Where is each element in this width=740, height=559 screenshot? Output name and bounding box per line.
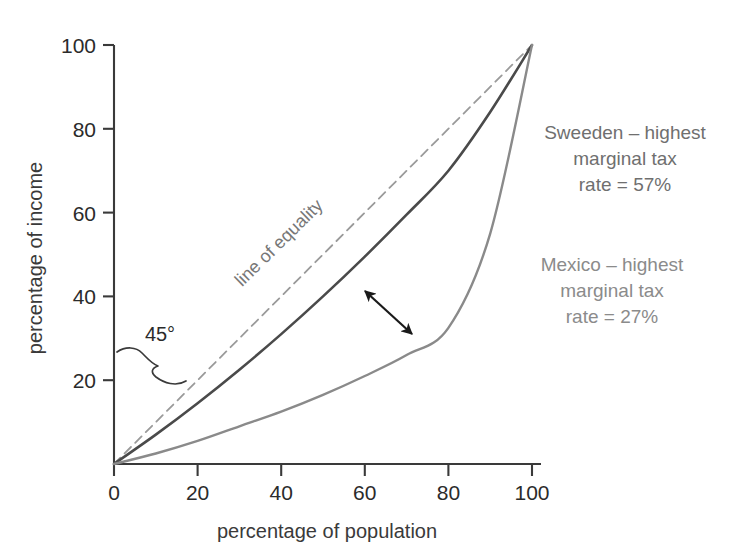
y-tick-marks: [103, 45, 114, 380]
angle-brace-icon: [117, 348, 186, 384]
angle-label: 45°: [145, 323, 175, 345]
y-tick-label-40: 40: [73, 285, 96, 308]
mexico-callout-line-3: rate = 27%: [566, 306, 659, 327]
line-of-equality-label: line of equality: [231, 195, 327, 290]
chart-canvas: 100 80 60 40 20 0 20 40 60 80 100 percen…: [0, 0, 740, 559]
sweden-callout-line-1: Sweeden – highest: [544, 122, 706, 143]
line-of-equality-curve: [114, 45, 532, 464]
y-tick-labels: 100 80 60 40 20: [61, 34, 96, 392]
x-axis-title: percentage of population: [217, 520, 437, 542]
sweden-callout-line-3: rate = 57%: [579, 174, 672, 195]
x-tick-label-80: 80: [437, 481, 460, 504]
sweden-callout-line-2: marginal tax: [573, 148, 677, 169]
x-tick-label-100: 100: [514, 481, 549, 504]
x-tick-label-40: 40: [270, 481, 293, 504]
y-axis-title: percentage of income: [24, 162, 46, 354]
y-tick-label-80: 80: [73, 118, 96, 141]
x-tick-label-0: 0: [108, 481, 120, 504]
y-tick-label-60: 60: [73, 202, 96, 225]
data-curves: [114, 45, 532, 464]
x-tick-labels: 0 20 40 60 80 100: [108, 481, 549, 504]
angle-brace-group: 45°: [117, 323, 186, 384]
y-tick-label-100: 100: [61, 34, 96, 57]
y-tick-label-20: 20: [73, 369, 96, 392]
x-tick-label-20: 20: [186, 481, 209, 504]
x-tick-marks: [114, 464, 532, 476]
mexico-callout-line-2: marginal tax: [560, 280, 664, 301]
x-tick-label-60: 60: [353, 481, 376, 504]
mexico-callout: Mexico – highest marginal tax rate = 27%: [541, 254, 684, 327]
mexico-callout-line-1: Mexico – highest: [541, 254, 684, 275]
gap-arrow-group: [365, 291, 412, 334]
sweden-callout: Sweeden – highest marginal tax rate = 57…: [544, 122, 706, 195]
axes-group: [103, 45, 541, 476]
gap-double-arrow-icon: [365, 291, 412, 334]
lorenz-curve-figure: 100 80 60 40 20 0 20 40 60 80 100 percen…: [0, 0, 740, 559]
